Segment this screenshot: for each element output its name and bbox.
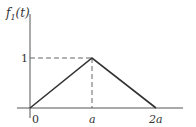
- triangle-function-line: [30, 58, 156, 108]
- y-tick-label-1: 1: [21, 52, 28, 65]
- x-tick-label-2a: 2a: [148, 113, 163, 126]
- y-axis-label: f1(t): [5, 6, 30, 22]
- x-tick-label-a: a: [89, 113, 96, 126]
- triangle-function-plot: f1(t) 1 0 a 2a: [0, 0, 196, 127]
- x-tick-label-0: 0: [32, 113, 39, 126]
